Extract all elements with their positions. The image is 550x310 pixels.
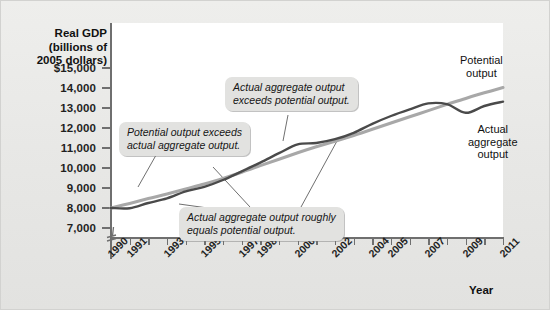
callout-line-2: actual aggregate output. <box>127 139 242 152</box>
actual-label-line-1: Actual <box>468 123 518 136</box>
callout-line-1: Potential output exceeds <box>127 126 242 139</box>
callout-actual-exceeds: Actual aggregate output exceeds potentia… <box>225 77 358 111</box>
potential-label-line-1: Potential <box>460 54 503 67</box>
label-actual-aggregate-output: Actual aggregate output <box>468 123 518 161</box>
callout-line-2: equals potential output. <box>187 224 336 237</box>
gdp-output-gap-figure: Real GDP(billions of2005 dollars) $15,00… <box>0 0 550 310</box>
actual-label-line-3: output <box>468 148 518 161</box>
callout-potential-exceeds: Potential output exceeds actual aggregat… <box>119 122 250 156</box>
callout-line-2: exceeds potential output. <box>233 94 350 107</box>
potential-label-line-2: output <box>460 67 503 80</box>
callout-roughly-equals: Actual aggregate output roughly equals p… <box>179 207 344 241</box>
label-potential-output: Potential output <box>460 54 503 79</box>
callout-line-1: Actual aggregate output <box>233 81 350 94</box>
actual-label-line-2: aggregate <box>468 136 518 149</box>
callout-line-1: Actual aggregate output roughly <box>187 211 336 224</box>
